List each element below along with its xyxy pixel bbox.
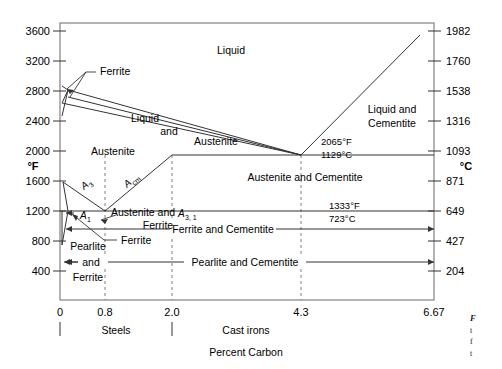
x-tick-label-0: 0 xyxy=(57,306,63,318)
y-tick-label-1600: 1600 xyxy=(26,175,50,187)
region-label-liquid-and-austenite-2: and xyxy=(160,125,178,137)
callout-label-ferrite-upper: Ferrite xyxy=(100,65,130,77)
left-axis-title: °F xyxy=(27,160,38,172)
curve-label-a1-letter: A xyxy=(79,210,87,221)
callout-label-ferrite-lower: Ferrite xyxy=(121,234,151,246)
y2-tick-label-871: 871 xyxy=(446,175,464,187)
region-label-austenite-and-cementite: Austenite and Cementite xyxy=(248,171,363,183)
y-tick-label-2000: 2000 xyxy=(26,145,50,157)
region-label-liquid: Liquid xyxy=(217,44,245,56)
y-tick-label-1200: 1200 xyxy=(26,205,50,217)
y2-tick-label-1316: 1316 xyxy=(446,115,470,127)
y2-tick-label-427: 427 xyxy=(446,235,464,247)
y2-tick-label-1538: 1538 xyxy=(446,85,470,97)
y2-tick-label-1760: 1760 xyxy=(446,55,470,67)
y-tick-label-800: 800 xyxy=(32,235,50,247)
region-label-ferrite-lower: Ferrite xyxy=(73,271,103,283)
x-tick-label-2p0: 2.0 xyxy=(164,306,179,318)
y2-tick-label-204: 204 xyxy=(446,265,464,277)
y2-tick-label-1982: 1982 xyxy=(446,25,470,37)
eutectoid-label-celsius: 723°C xyxy=(329,213,356,224)
figure-caption-lead: F xyxy=(470,313,476,323)
y-tick-label-2400: 2400 xyxy=(26,115,50,127)
iron-carbon-phase-diagram: 3600 3200 2800 2400 2000 1600 1200 800 4… xyxy=(0,0,502,369)
diagram-canvas: 3600 3200 2800 2400 2000 1600 1200 800 4… xyxy=(0,0,502,369)
figure-caption-line-3: t xyxy=(470,349,472,358)
x-tick-label-0p8: 0.8 xyxy=(97,306,112,318)
y2-tick-label-649: 649 xyxy=(446,205,464,217)
region-label-liquid-and-cementite-2: Cementite xyxy=(368,117,416,129)
region-label-pearlite-and-cementite: Pearlite and Cementite xyxy=(192,256,299,268)
region-label-austenite-and: Austenite and xyxy=(111,206,175,218)
region-label-austenite: Austenite xyxy=(91,145,135,157)
eutectoid-label-fahrenheit: 1333°F xyxy=(329,200,360,211)
y-tick-label-400: 400 xyxy=(32,265,50,277)
figure-caption-line-2: f xyxy=(470,337,473,346)
y-tick-label-3200: 3200 xyxy=(26,55,50,67)
curve-label-a1-subscript: 1 xyxy=(87,216,91,223)
y-tick-label-3600: 3600 xyxy=(26,25,50,37)
eutectic-label-fahrenheit: 2065°F xyxy=(321,136,352,147)
region-label-liquid-and-cementite-1: Liquid and xyxy=(368,103,417,115)
range-label-cast-irons: Cast irons xyxy=(222,324,269,336)
region-label-ferrite-sub: Ferrite xyxy=(143,219,173,231)
region-label-liquid-and-austenite-1: Liquid xyxy=(131,112,159,124)
curve-label-a31-letter: A xyxy=(177,208,185,219)
region-label-ferrite-and-cementite: Ferrite and Cementite xyxy=(172,223,274,235)
region-label-liquid-and-austenite-3: Austenite xyxy=(194,135,238,147)
range-label-steels: Steels xyxy=(101,324,130,336)
x-tick-label-4p3: 4.3 xyxy=(293,306,308,318)
y2-tick-label-1093: 1093 xyxy=(446,145,470,157)
x-tick-label-6p67: 6.67 xyxy=(423,306,444,318)
y-tick-label-2800: 2800 xyxy=(26,85,50,97)
x-axis-title: Percent Carbon xyxy=(209,346,283,358)
region-label-and: and xyxy=(82,256,100,268)
figure-caption: F t f t xyxy=(470,312,502,359)
right-axis-title: °C xyxy=(460,160,472,172)
curve-label-a31-subscript: 3, 1 xyxy=(185,214,197,221)
eutectic-label-celsius: 1129°C xyxy=(321,149,352,160)
figure-caption-line-1: t xyxy=(470,326,472,335)
region-label-pearlite: Pearlite xyxy=(70,240,106,252)
